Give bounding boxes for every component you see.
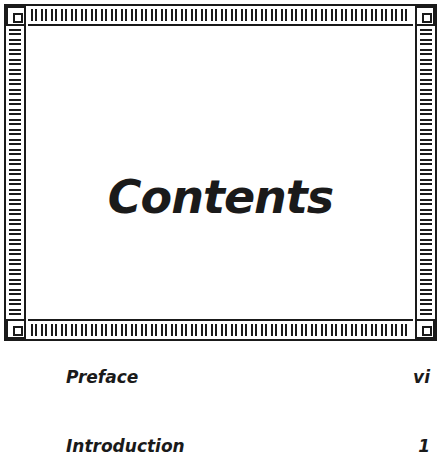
greek-key-pattern-icon — [30, 9, 411, 21]
border-band-bottom — [28, 319, 413, 339]
toc-entry-page-number: vi — [413, 367, 430, 387]
page-title: Contents — [0, 170, 441, 224]
toc-entry-label: Introduction — [66, 436, 185, 456]
corner-square-icon — [6, 319, 26, 339]
toc-entry-page-number: 1 — [418, 436, 430, 456]
corner-square-icon — [415, 6, 435, 26]
border-band-top — [28, 6, 413, 26]
greek-key-pattern-icon — [30, 324, 411, 336]
corner-square-icon — [415, 319, 435, 339]
corner-square-icon — [6, 6, 26, 26]
toc-entry-label: Preface — [66, 367, 138, 387]
